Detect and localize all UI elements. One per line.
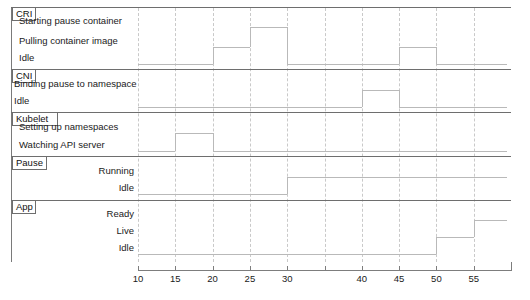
state-label-app-0: Ready (107, 209, 134, 219)
group-rule-pause (11, 156, 511, 157)
signal-transition-pause-0 (287, 177, 288, 195)
signal-segment-pause-1 (287, 177, 507, 178)
group-rule-app (11, 200, 511, 201)
axis-tick-label-55: 55 (459, 274, 489, 284)
axis-tick-25 (250, 266, 251, 270)
signal-transition-cni-0 (362, 90, 363, 108)
axis-tick-50 (436, 266, 437, 270)
state-label-cni-1: Idle (14, 96, 29, 106)
state-label-cri-1: Pulling container image (19, 36, 118, 46)
state-label-app-2: Idle (119, 243, 134, 253)
signal-segment-cni-1 (362, 90, 399, 91)
group-rule-cri (11, 7, 511, 8)
state-label-cni-0: Binding pause to namespace (14, 79, 137, 89)
signal-segment-cri-2 (250, 27, 287, 28)
state-label-kubelet-0: Setting up namespaces (19, 122, 118, 132)
axis-tick-label-30: 30 (272, 274, 302, 284)
signal-transition-cri-0 (213, 47, 214, 64)
group-rule-kubelet (11, 112, 511, 113)
signal-segment-cri-5 (436, 64, 507, 65)
signal-transition-kubelet-0 (175, 133, 176, 151)
axis-baseline (138, 270, 511, 271)
timing-diagram: CRIStarting pause containerPulling conta… (0, 0, 530, 300)
signal-segment-kubelet-0 (138, 151, 175, 152)
axis-tick-30 (287, 266, 288, 270)
signal-segment-cri-4 (399, 47, 436, 48)
signal-segment-cri-3 (287, 64, 399, 65)
signal-transition-cri-4 (436, 47, 437, 64)
group-rule-cni (11, 69, 511, 70)
axis-tick-15 (175, 266, 176, 270)
signal-transition-app-0 (436, 237, 437, 254)
signal-segment-cri-0 (138, 64, 213, 65)
gridline-t10 (138, 8, 139, 262)
signal-segment-kubelet-1 (175, 133, 212, 134)
axis-tick-55 (474, 266, 475, 270)
signal-segment-kubelet-2 (213, 151, 508, 152)
axis-tick-label-10: 10 (123, 274, 153, 284)
group-tag-tail-pause (47, 157, 57, 170)
axis-end-cap (511, 262, 512, 271)
signal-transition-cni-1 (399, 90, 400, 108)
signal-segment-cni-0 (138, 107, 362, 108)
group-label-app: App (12, 201, 36, 214)
state-label-pause-0: Running (99, 166, 134, 176)
axis-tick-35 (325, 266, 326, 270)
state-label-cri-0: Starting pause container (19, 16, 122, 26)
state-label-app-1: Live (117, 226, 134, 236)
signal-transition-kubelet-1 (213, 133, 214, 151)
signal-segment-app-1 (436, 237, 473, 238)
axis-tick-40 (362, 266, 363, 270)
axis-tick-45 (399, 266, 400, 270)
gridline-t35 (325, 8, 326, 262)
axis-tick-label-50: 50 (421, 274, 451, 284)
signal-transition-cri-1 (250, 27, 251, 48)
axis-tick-label-15: 15 (160, 274, 190, 284)
signal-segment-app-2 (474, 220, 508, 221)
axis-tick-label-20: 20 (198, 274, 228, 284)
axis-tick-label-25: 25 (235, 274, 265, 284)
signal-segment-cri-1 (213, 47, 250, 48)
state-label-kubelet-1: Watching API server (19, 140, 105, 150)
axis-tick-label-45: 45 (384, 274, 414, 284)
state-label-cri-2: Idle (19, 53, 34, 63)
axis-tick-10 (138, 266, 139, 270)
signal-transition-cri-2 (287, 27, 288, 65)
signal-transition-cri-3 (399, 47, 400, 64)
gridline-t40 (362, 8, 363, 262)
group-tag-tail-app (36, 201, 46, 214)
axis-tick-20 (213, 266, 214, 270)
signal-segment-app-0 (138, 254, 436, 255)
signal-segment-pause-0 (138, 194, 287, 195)
axis-tick-label-40: 40 (347, 274, 377, 284)
group-label-pause: Pause (12, 157, 47, 170)
state-label-pause-1: Idle (119, 183, 134, 193)
signal-segment-cni-2 (399, 107, 507, 108)
signal-transition-app-1 (474, 220, 475, 238)
